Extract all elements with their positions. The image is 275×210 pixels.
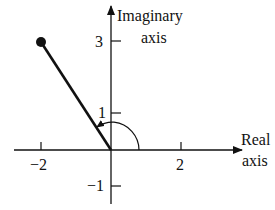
imaginary-axis-label-line1: Imaginary: [117, 7, 183, 25]
imag-tick-label-1: 1: [98, 104, 106, 121]
complex-plane-diagram: −2 2 3 1 −1 Imaginary axis Real axis: [0, 0, 275, 210]
real-axis-label-line2: axis: [242, 152, 268, 169]
imag-tick-label-3: 3: [95, 33, 103, 50]
point-marker: [36, 37, 46, 47]
imag-tick-label-neg1: −1: [87, 177, 104, 194]
real-tick-label-2: 2: [176, 156, 184, 173]
vector-line: [41, 42, 111, 150]
real-axis-label-line1: Real: [241, 131, 271, 148]
imaginary-axis-label-line2: axis: [141, 29, 167, 46]
real-tick-label-neg2: −2: [30, 156, 47, 173]
diagram-svg: −2 2 3 1 −1 Imaginary axis Real axis: [0, 0, 275, 210]
